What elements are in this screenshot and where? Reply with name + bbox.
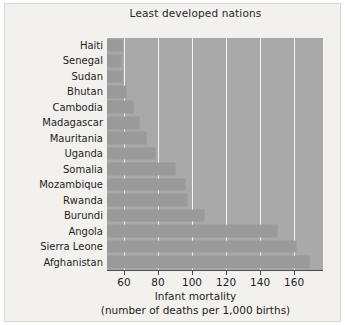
y-axis-tick-label: Senegal (0, 53, 103, 68)
y-axis-tick-label: Uganda (0, 146, 103, 161)
bar (107, 163, 175, 175)
bar-row (107, 193, 323, 208)
x-axis-line (107, 270, 323, 271)
bar (107, 117, 139, 129)
x-axis-tick (158, 270, 159, 275)
y-axis-tick-label: Angola (0, 224, 103, 239)
bar-row (107, 53, 323, 68)
y-axis-tick-label: Somalia (0, 162, 103, 177)
bar (107, 210, 204, 222)
x-axis-title-line-2: (number of deaths per 1,000 births) (46, 304, 345, 318)
bar-row (107, 69, 323, 84)
y-axis-tick-label: Sudan (0, 69, 103, 84)
bar-row (107, 239, 323, 254)
bar (107, 132, 146, 144)
bar-row (107, 115, 323, 130)
bar (107, 241, 296, 253)
bar-row (107, 131, 323, 146)
y-axis-tick-label: Rwanda (0, 193, 103, 208)
bar (107, 194, 187, 206)
chart-figure: Least developed nations HaitiSenegalSuda… (0, 0, 345, 325)
x-axis-tick (124, 270, 125, 275)
bar (107, 148, 155, 160)
y-axis-tick-label: Cambodia (0, 100, 103, 115)
bar-row (107, 38, 323, 53)
bar-row (107, 255, 323, 270)
x-axis-title: Infant mortality (number of deaths per 1… (0, 290, 345, 317)
y-axis-labels: HaitiSenegalSudanBhutanCambodiaMadagasca… (0, 38, 103, 270)
x-axis-title-line-1: Infant mortality (46, 290, 345, 304)
bar-row (107, 162, 323, 177)
x-axis-tick (294, 270, 295, 275)
bar (107, 71, 122, 83)
plot-area (107, 38, 323, 270)
bar (107, 101, 133, 113)
y-axis-tick-label: Haiti (0, 38, 103, 53)
bar-row (107, 100, 323, 115)
y-axis-tick-label: Sierra Leone (0, 239, 103, 254)
x-axis-tick (260, 270, 261, 275)
bar (107, 86, 126, 98)
bar-row (107, 177, 323, 192)
bar (107, 55, 121, 67)
x-axis-tick (192, 270, 193, 275)
bar-row (107, 208, 323, 223)
bar-row (107, 224, 323, 239)
y-axis-tick-label: Mozambique (0, 177, 103, 192)
bar-row (107, 146, 323, 161)
y-axis-tick-label: Bhutan (0, 84, 103, 99)
bar-row (107, 84, 323, 99)
bar (107, 40, 122, 52)
y-axis-tick-label: Madagascar (0, 115, 103, 130)
y-axis-tick-label: Mauritania (0, 131, 103, 146)
bar (107, 225, 277, 237)
bar (107, 179, 185, 191)
x-axis-tick (226, 270, 227, 275)
chart-title: Least developed nations (0, 7, 345, 19)
x-axis-tick-label: 160 (274, 276, 314, 288)
bar (107, 256, 309, 268)
y-axis-tick-label: Burundi (0, 208, 103, 223)
y-axis-tick-label: Afghanistan (0, 255, 103, 270)
